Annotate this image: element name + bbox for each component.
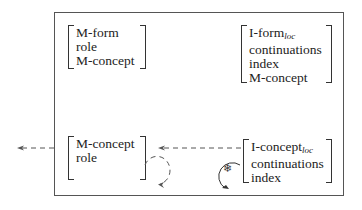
edges-layer [0, 0, 362, 210]
dashed-arrow-right-to-left [158, 146, 241, 151]
snowflake-icon: ❄ [223, 163, 232, 174]
dashed-arrow-exit-left [17, 146, 54, 151]
dashed-self-loop [145, 156, 170, 188]
